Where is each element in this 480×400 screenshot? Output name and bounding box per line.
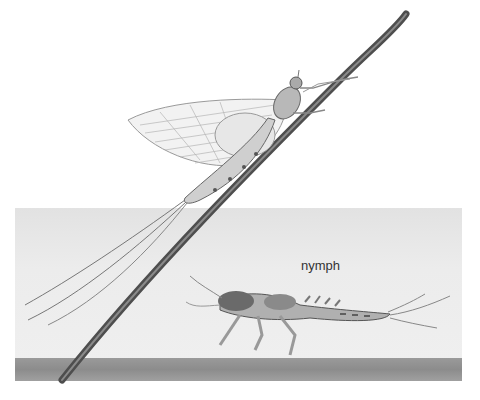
- mayfly-illustration: nymph: [0, 0, 480, 400]
- illustration-drawing: [0, 0, 480, 400]
- nymph: [186, 276, 450, 355]
- nymph-label: nymph: [301, 258, 340, 273]
